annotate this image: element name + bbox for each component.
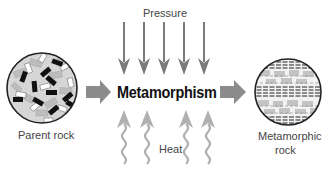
parent-rock-label: Parent rock <box>18 129 74 141</box>
pressure-label: Pressure <box>143 7 187 19</box>
parent-rock-icon <box>7 53 80 125</box>
metamorphic-rock-label-line2: rock <box>275 144 296 156</box>
metamorphism-title: Metamorphism <box>117 83 217 103</box>
flow-arrow-in-icon <box>86 80 111 104</box>
heat-arrows-icon <box>117 110 215 164</box>
metamorphic-rock-label-line1: Metamorphic <box>258 130 322 142</box>
pressure-arrows-icon <box>118 22 210 75</box>
metamorphism-diagram: Pressure Metamorphism Heat Parent rock M… <box>0 0 330 178</box>
flow-arrow-out-icon <box>220 80 246 104</box>
metamorphic-rock-icon <box>250 59 330 125</box>
heat-label: Heat <box>159 143 182 155</box>
